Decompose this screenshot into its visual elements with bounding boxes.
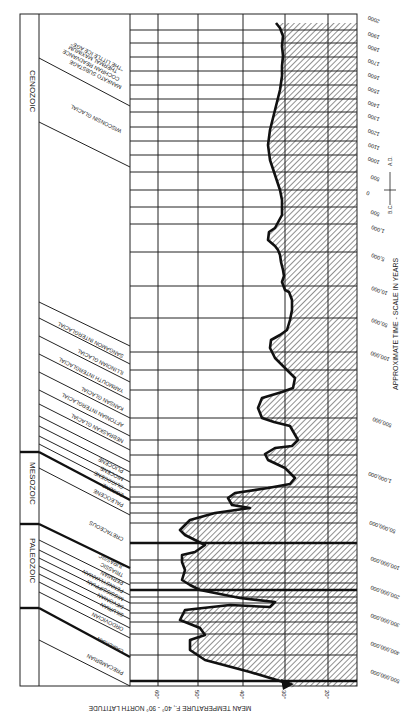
period-label: CAMBRIAN — [96, 636, 125, 655]
time-tick-label: 400,000,000 — [370, 641, 401, 657]
time-tick-label: 1400 — [367, 100, 381, 110]
time-tick-label: 2000 — [367, 15, 381, 25]
time-tick-label: 100,000,000 — [370, 556, 401, 572]
time-tick-label: 1300 — [367, 113, 381, 123]
temp-tick-label: 30° — [281, 690, 287, 700]
time-tick-label: 5,000 — [370, 252, 385, 262]
temperature-axis-title: MEAN TEMPERATURE F., 40° - 90° NORTH LAT… — [88, 705, 251, 712]
time-tick-label: 500 — [370, 174, 381, 183]
time-tick-label: 50,000 — [370, 317, 388, 328]
climate-chart: CENOZOIC MESOZOIC PALEOZOIC "THE LITTLE … — [0, 0, 418, 721]
time-tick-label: 300,000,000 — [370, 613, 401, 629]
era-label-cenozoic: CENOZOIC — [28, 70, 37, 112]
temp-tick-label: 20° — [324, 690, 330, 700]
time-tick-label: 1200 — [367, 128, 381, 138]
time-tick-label: 1100 — [367, 142, 380, 152]
temp-tick-label: 60° — [154, 690, 160, 700]
era-label-mesozoic: MESOZOIC — [28, 462, 37, 505]
temp-tick-label: 50° — [194, 690, 200, 700]
era-label-paleozoic: PALEOZOIC — [28, 538, 37, 583]
time-tick-label: 10,000 — [370, 285, 388, 296]
temperature-tick-labels: 60° 50° 40° 30° 20° — [154, 690, 330, 700]
bc-label: B.C. — [387, 204, 393, 214]
temp-tick-label: 40° — [239, 690, 245, 700]
time-tick-label: 1800 — [367, 44, 381, 54]
time-axis-title: APPROXIMATE TIME - SCALE IN YEARS — [392, 257, 399, 390]
time-tick-label: 1600 — [367, 72, 381, 82]
period-label: CRETACEOUS — [88, 520, 125, 543]
bc-ad-marker: A.D. B.C. — [384, 156, 396, 214]
time-tick-label: 500,000,000 — [370, 669, 401, 685]
time-tick-label: 50,000,000 — [368, 520, 396, 535]
time-tick-label: 1700 — [367, 58, 381, 68]
ad-label: A.D. — [387, 156, 393, 166]
period-label: WISCONSIN GLACIAL — [69, 103, 122, 134]
time-tick-label: 1900 — [367, 31, 381, 41]
time-tick-label: 0 — [365, 190, 370, 197]
time-tick-label: 200,000,000 — [370, 585, 401, 601]
time-tick-label: 1000 — [367, 156, 381, 166]
time-tick-label: 100,000 — [370, 350, 391, 362]
time-tick-label: 500,000 — [372, 416, 393, 428]
hatched-area — [180, 23, 357, 688]
time-tick-label: 1,000 — [370, 224, 385, 234]
time-tick-label: 500 — [370, 209, 381, 218]
time-tick-label: 1500 — [367, 86, 381, 96]
period-label: NEBRASKAN GLACIAL — [69, 412, 124, 444]
time-tick-label: 1,000,000 — [367, 471, 392, 485]
era-labels: CENOZOIC MESOZOIC PALEOZOIC — [28, 70, 37, 583]
